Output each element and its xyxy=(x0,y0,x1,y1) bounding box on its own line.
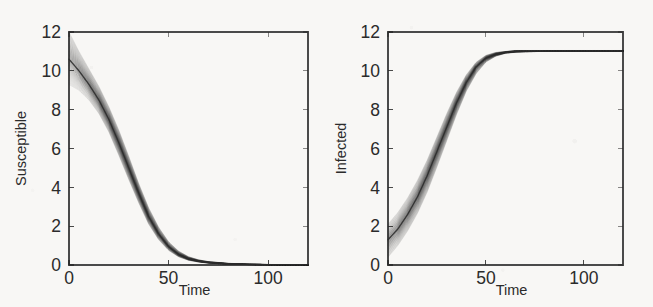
trajectory xyxy=(388,51,623,241)
trajectory xyxy=(69,33,308,265)
trajectory xyxy=(388,51,623,244)
trajectory xyxy=(69,66,308,264)
trajectory xyxy=(388,51,623,238)
trajectory xyxy=(69,62,308,265)
trajectory xyxy=(388,51,623,241)
trajectory xyxy=(388,51,623,234)
x-tick-label: 100 xyxy=(254,268,283,288)
y-tick-label: 6 xyxy=(370,139,380,159)
x-axis-title: Time xyxy=(179,282,211,298)
trajectory xyxy=(388,51,623,240)
trajectory xyxy=(388,51,623,235)
trajectory xyxy=(388,51,623,251)
trajectory xyxy=(388,51,623,232)
trajectory xyxy=(388,51,623,243)
trajectory xyxy=(388,51,623,245)
trajectory xyxy=(388,51,623,236)
trajectory xyxy=(69,34,308,264)
trajectory xyxy=(388,51,623,252)
trajectory xyxy=(69,57,308,264)
y-tick-label: 4 xyxy=(370,178,380,198)
y-tick-label: 12 xyxy=(42,22,61,42)
trajectory xyxy=(388,51,623,247)
ensemble-band xyxy=(388,50,623,257)
trajectory xyxy=(69,51,308,264)
x-tick-label: 100 xyxy=(569,268,598,288)
x-tick-label: 50 xyxy=(476,268,496,288)
trajectory xyxy=(69,61,308,265)
trajectory xyxy=(69,48,308,265)
trajectory xyxy=(69,32,308,265)
figure-container: 024681012050100TimeSusceptible 024681012… xyxy=(0,0,653,307)
trajectory xyxy=(69,53,308,265)
trajectory xyxy=(388,51,623,256)
trajectory xyxy=(69,65,308,264)
trajectory xyxy=(69,49,308,265)
y-tick-label: 6 xyxy=(51,139,61,159)
trajectory xyxy=(388,51,623,234)
trajectory xyxy=(388,51,623,239)
trajectory xyxy=(388,51,623,253)
x-axis-title: Time xyxy=(496,282,528,298)
trajectory xyxy=(388,51,623,231)
trajectory xyxy=(69,54,308,265)
y-tick-label: 10 xyxy=(42,61,62,81)
ensemble-band xyxy=(69,32,308,265)
trajectory xyxy=(388,51,623,247)
trajectory xyxy=(388,51,623,229)
trajectory xyxy=(388,51,623,248)
ensemble-mean-line xyxy=(388,51,623,239)
trajectory xyxy=(388,51,623,244)
trajectory xyxy=(69,47,308,265)
susceptible-plot-svg: 024681012050100TimeSusceptible xyxy=(0,0,326,307)
trajectory xyxy=(388,51,623,242)
y-tick-label: 4 xyxy=(51,178,61,198)
y-tick-label: 12 xyxy=(361,22,380,42)
trajectory xyxy=(388,51,623,237)
trajectory xyxy=(69,63,308,265)
trajectory xyxy=(69,68,308,265)
y-tick-label: 8 xyxy=(51,100,61,120)
y-tick-label: 0 xyxy=(370,255,380,275)
trajectory xyxy=(388,51,623,257)
axis-box xyxy=(69,32,308,265)
x-tick-label: 0 xyxy=(383,268,393,288)
trajectory xyxy=(388,51,623,249)
chart-panel-infected: 024681012050100TimeInfected xyxy=(320,0,653,307)
trajectory xyxy=(69,59,308,265)
trajectory xyxy=(69,38,308,265)
trajectory xyxy=(69,44,308,265)
infected-plot-svg: 024681012050100TimeInfected xyxy=(320,0,653,307)
trajectory xyxy=(69,43,308,265)
trajectory xyxy=(69,42,308,265)
trajectory xyxy=(69,64,308,265)
trajectory xyxy=(388,51,623,251)
ensemble-mean-line xyxy=(69,59,308,265)
y-tick-label: 8 xyxy=(370,100,380,120)
trajectory xyxy=(388,51,623,254)
trajectory xyxy=(69,39,308,264)
y-tick-label: 2 xyxy=(370,216,380,236)
trajectory xyxy=(69,50,308,265)
y-tick-label: 2 xyxy=(51,216,61,236)
trajectory xyxy=(388,51,623,233)
y-tick-label: 0 xyxy=(51,255,61,275)
trajectory xyxy=(69,37,308,265)
trajectory xyxy=(388,51,623,238)
trajectory xyxy=(388,51,623,254)
x-tick-label: 0 xyxy=(64,268,74,288)
x-tick-label: 50 xyxy=(159,268,179,288)
trajectory xyxy=(388,51,623,255)
trajectory xyxy=(69,36,308,265)
trajectory xyxy=(69,56,308,265)
trajectory xyxy=(388,51,623,236)
trajectory xyxy=(388,51,623,233)
trajectory xyxy=(69,60,308,265)
y-axis-title: Infected xyxy=(333,123,349,175)
y-tick-label: 10 xyxy=(361,61,381,81)
trajectory xyxy=(69,45,308,264)
trajectory xyxy=(388,51,623,230)
trajectory xyxy=(69,40,308,264)
axis-box xyxy=(388,32,623,265)
chart-panel-susceptible: 024681012050100TimeSusceptible xyxy=(0,0,326,307)
